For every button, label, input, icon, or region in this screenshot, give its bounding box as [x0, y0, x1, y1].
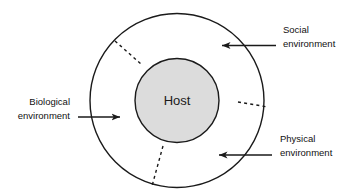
social-environment-label-line2: environment: [283, 38, 336, 49]
diagram-canvas: Host Social environment Biological envir…: [0, 0, 346, 196]
physical-environment-label-line2: environment: [280, 147, 333, 158]
biological-environment-label-line2: environment: [18, 110, 71, 121]
host-label: Host: [164, 93, 191, 108]
biological-environment-label-line1: Biological: [29, 96, 70, 107]
social-environment-label-line1: Social: [283, 24, 309, 35]
physical-environment-label-line1: Physical: [280, 133, 315, 144]
concentric-circles-diagram: Host Social environment Biological envir…: [0, 0, 346, 196]
